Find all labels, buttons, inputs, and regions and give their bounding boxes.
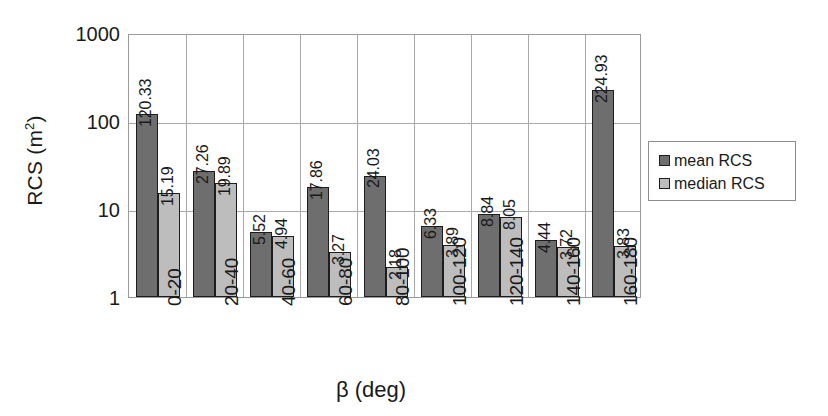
x-tick-label: 60-80 [336, 258, 355, 306]
bar-value-label: 120.33 [138, 79, 154, 127]
legend-item: median RCS [659, 172, 795, 195]
bar-value-label: 15.19 [160, 166, 176, 206]
legend-label: mean RCS [674, 153, 752, 169]
bar-value-label: 5.52 [252, 214, 268, 245]
x-tick-label: 160-180 [621, 237, 640, 306]
bar-mean [307, 187, 329, 297]
x-tick-label: 0-20 [165, 268, 184, 306]
y-tick-label: 1 [50, 288, 120, 308]
bar-mean [193, 171, 215, 297]
chart-legend: mean RCSmedian RCS [648, 141, 796, 201]
bar-group: 120.3315.19 [129, 35, 186, 297]
legend-swatch-mean [659, 155, 670, 166]
bar-value-label: 27.26 [195, 144, 211, 184]
x-tick-label: 100-120 [450, 237, 469, 306]
x-tick-label: 20-40 [222, 258, 241, 306]
bar-value-label: 24.03 [366, 149, 382, 189]
bar-mean [136, 114, 158, 297]
y-axis-title-base: RCS (m [23, 130, 46, 206]
bar-value-label: 4.94 [274, 218, 290, 249]
x-axis-title: β (deg) [336, 377, 406, 403]
y-tick-label: 1000 [50, 24, 120, 44]
x-tick-label: 140-160 [564, 237, 583, 306]
bar-value-label: 4.44 [537, 222, 553, 253]
bar-value-label: 6.33 [423, 209, 439, 240]
rcs-bar-chart-figure: RCS (m2) 1000100101 120.3315.1927.2619.8… [0, 0, 828, 416]
y-tick-label: 10 [50, 200, 120, 220]
bar-value-label: 19.89 [217, 156, 233, 196]
x-tick-label: 120-140 [507, 237, 526, 306]
y-axis-title-tail: ) [23, 115, 46, 122]
bar-mean [364, 176, 386, 298]
legend-item: mean RCS [659, 149, 795, 172]
bar-value-label: 8.05 [502, 200, 518, 231]
legend-swatch-median [659, 178, 670, 189]
y-axis-title: RCS (m2) [22, 61, 47, 261]
x-tick-label: 80-100 [393, 247, 412, 306]
y-axis-title-exponent: 2 [22, 122, 37, 129]
legend-label: median RCS [674, 176, 765, 192]
y-tick-label: 100 [50, 112, 120, 132]
x-tick-label: 40-60 [279, 258, 298, 306]
bar-value-label: 224.93 [594, 55, 610, 103]
bar-value-label: 8.84 [480, 196, 496, 227]
bar-value-label: 17.86 [309, 160, 325, 200]
bar-mean [592, 90, 614, 297]
